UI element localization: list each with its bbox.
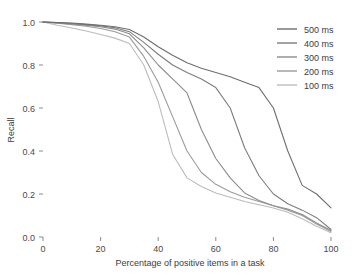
x-axis-title: Percentage of positive items in a task [115, 258, 265, 268]
y-axis-ticks [39, 22, 43, 237]
series-line-300-ms [43, 22, 331, 231]
series-line-400-ms [43, 22, 331, 229]
x-tick-label: 80 [268, 244, 278, 254]
x-tick-label: 0 [40, 244, 45, 254]
y-tick-label: 0.8 [22, 61, 35, 71]
legend-label-100-ms: 100 ms [304, 81, 334, 91]
x-axis-group: 020406080100 Percentage of positive item… [40, 237, 338, 268]
chart-legend: 500 ms400 ms300 ms200 ms100 ms [277, 25, 334, 91]
x-tick-label: 20 [96, 244, 106, 254]
series-line-200-ms [43, 22, 331, 232]
x-tick-label: 60 [211, 244, 221, 254]
series-line-500-ms [43, 22, 331, 208]
y-tick-label: 0.0 [22, 233, 35, 243]
x-tick-label: 40 [153, 244, 163, 254]
series-lines-group [43, 22, 331, 233]
x-axis-ticks [43, 237, 331, 241]
x-tick-label: 100 [323, 244, 338, 254]
x-axis-tick-labels: 020406080100 [40, 244, 338, 254]
y-tick-label: 0.6 [22, 104, 35, 114]
y-tick-label: 0.2 [22, 190, 35, 200]
y-tick-label: 0.4 [22, 147, 35, 157]
y-axis-tick-labels: 0.00.20.40.60.81.0 [22, 18, 35, 243]
chart-canvas: 0.00.20.40.60.81.0 Recall 020406080100 P… [0, 0, 356, 278]
series-line-100-ms [43, 22, 331, 233]
legend-label-500-ms: 500 ms [304, 25, 334, 35]
y-tick-label: 1.0 [22, 18, 35, 28]
y-axis-group: 0.00.20.40.60.81.0 Recall [6, 18, 43, 243]
y-axis-title: Recall [6, 117, 16, 142]
legend-label-400-ms: 400 ms [304, 39, 334, 49]
legend-label-200-ms: 200 ms [304, 67, 334, 77]
recall-line-chart: 0.00.20.40.60.81.0 Recall 020406080100 P… [0, 0, 356, 278]
legend-label-300-ms: 300 ms [304, 53, 334, 63]
